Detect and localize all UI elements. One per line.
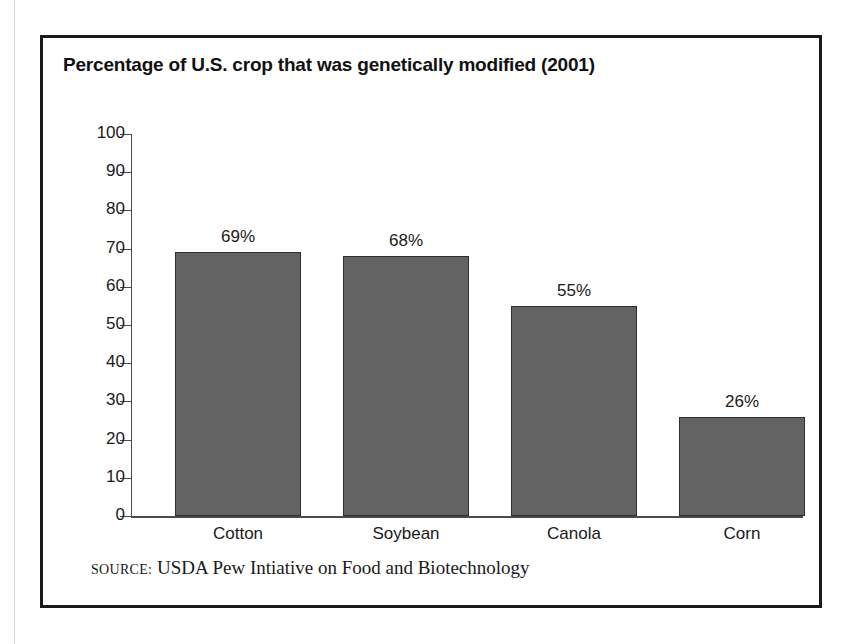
x-tick-label: Cotton xyxy=(175,524,301,544)
bar: 26% xyxy=(679,417,805,516)
bar: 68% xyxy=(343,256,469,516)
y-tick-label: 100 xyxy=(97,123,125,143)
bar-value-label: 26% xyxy=(680,392,804,412)
bar-value-label: 69% xyxy=(176,227,300,247)
bar-value-label: 68% xyxy=(344,231,468,251)
y-tick-label: 60 xyxy=(106,276,125,296)
y-tick-label: 10 xyxy=(106,467,125,487)
bar: 55% xyxy=(511,306,637,516)
y-tick-label: 70 xyxy=(106,238,125,258)
x-axis-line xyxy=(131,516,803,518)
y-tick-label: 20 xyxy=(106,429,125,449)
source-label: SOURCE: xyxy=(91,562,152,577)
y-tick-label: 40 xyxy=(106,352,125,372)
chart-title: Percentage of U.S. crop that was genetic… xyxy=(63,54,595,76)
y-tick-label: 80 xyxy=(106,199,125,219)
y-tick-label: 50 xyxy=(106,314,125,334)
y-tick-label: 30 xyxy=(106,390,125,410)
x-tick-label: Canola xyxy=(511,524,637,544)
bar-value-label: 55% xyxy=(512,281,636,301)
y-axis-line xyxy=(131,134,132,516)
source-note: SOURCE: USDA Pew Intiative on Food and B… xyxy=(91,557,530,579)
bar: 69% xyxy=(175,252,301,516)
source-text: USDA Pew Intiative on Food and Biotechno… xyxy=(157,557,530,578)
x-tick-label: Corn xyxy=(679,524,805,544)
plot-area: 1009080706050403020100 69%68%55%26% Cott… xyxy=(131,134,803,516)
y-tick-label: 90 xyxy=(106,161,125,181)
x-tick-label: Soybean xyxy=(343,524,469,544)
page-edge-line xyxy=(14,0,15,644)
chart-figure-frame: Percentage of U.S. crop that was genetic… xyxy=(40,35,822,608)
y-tick-label: 0 xyxy=(116,505,125,525)
